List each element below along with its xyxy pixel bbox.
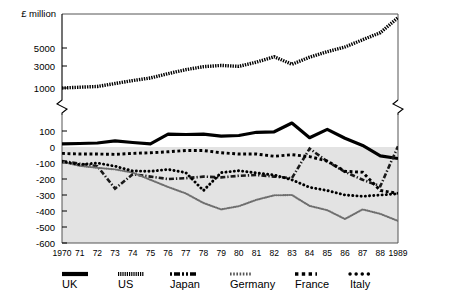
x-axis-tick-labels: 1970717273747576777879808182838485868788… [53,248,408,258]
lower-tick-label--600: -600 [36,238,55,249]
lower-tick-label--400: -400 [36,206,55,217]
x-tick-label-74: 74 [128,248,138,258]
x-tick-label-82: 82 [269,248,279,258]
x-tick-label-75: 75 [146,248,156,258]
lower-tick-label--500: -500 [36,222,55,233]
legend-label-uk: UK [62,278,78,290]
chart-figure: £ million 100030005000 1000-100-200-300-… [0,0,449,302]
legend-label-japan: Japan [170,278,200,290]
x-tick-label-73: 73 [110,248,120,258]
lower-tick-label-100: 100 [39,126,55,137]
x-tick-label-85: 85 [323,248,333,258]
x-tick-label-71: 71 [75,248,85,258]
lower-tick-label--100: -100 [36,158,55,169]
series-us [62,18,398,88]
x-tick-label-88: 88 [376,248,386,258]
line-chart-svg: £ million 100030005000 1000-100-200-300-… [0,0,449,302]
x-tick-label-1989: 1989 [389,248,408,258]
x-tick-label-1970: 1970 [53,248,72,258]
legend-label-france: France [295,278,329,290]
x-tick-label-83: 83 [287,248,297,258]
x-tick-label-72: 72 [93,248,103,258]
x-tick-label-78: 78 [199,248,209,258]
right-axis-break [393,100,403,115]
upper-tick-label-1000: 1000 [34,83,55,94]
legend-label-italy: Italy [350,278,371,290]
lower-tick-label-0: 0 [50,142,55,153]
upper-tick-label-5000: 5000 [34,43,55,54]
x-tick-label-87: 87 [358,248,368,258]
upper-tick-label-3000: 3000 [34,61,55,72]
x-tick-label-77: 77 [181,248,191,258]
x-tick-label-80: 80 [234,248,244,258]
x-tick-label-86: 86 [340,248,350,258]
chart-legend: UKUSJapanGermanyFranceItaly [62,274,372,290]
x-tick-label-76: 76 [163,248,173,258]
lower-tick-label--200: -200 [36,174,55,185]
x-tick-label-79: 79 [216,248,226,258]
legend-label-germany: Germany [230,278,276,290]
lower-tick-label--300: -300 [36,190,55,201]
series-upper-panel [62,18,398,88]
x-tick-label-81: 81 [252,248,262,258]
y-axis-title: £ million [21,8,56,19]
y-axis-with-break [57,14,67,115]
legend-label-us: US [118,278,133,290]
x-tick-label-84: 84 [305,248,315,258]
